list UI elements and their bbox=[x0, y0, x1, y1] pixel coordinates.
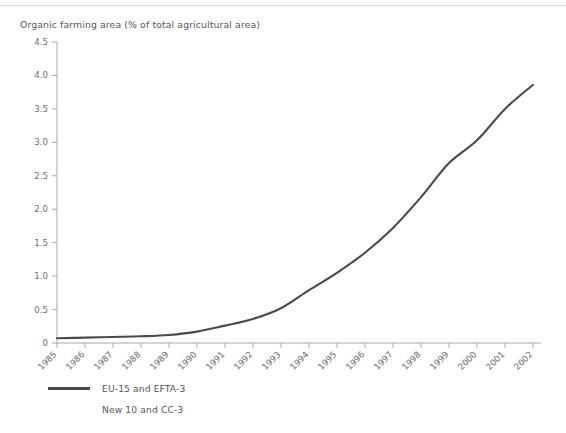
legend-item-label: New 10 and CC-3 bbox=[102, 404, 183, 415]
y-axis: 00.51.01.52.02.53.03.54.04.5 bbox=[34, 37, 57, 348]
x-axis-tick-label: 1993 bbox=[260, 349, 283, 372]
y-axis-tick-label: 3.0 bbox=[34, 137, 48, 147]
x-axis-tick-label: 1992 bbox=[232, 349, 255, 372]
x-axis-tick-label: 1986 bbox=[64, 349, 87, 372]
x-axis-tick-label: 1995 bbox=[316, 349, 339, 372]
series-line bbox=[57, 85, 533, 339]
y-axis-tick-label: 2.0 bbox=[34, 204, 48, 214]
y-axis-tick-label: 4.5 bbox=[34, 37, 48, 47]
legend-item-new10[interactable]: New 10 and CC-3 bbox=[48, 404, 183, 415]
x-axis-tick-label: 1990 bbox=[176, 349, 199, 372]
y-axis-tick-label: 3.5 bbox=[34, 104, 48, 114]
x-axis: 1985198619871988198919901991199219931994… bbox=[36, 343, 541, 372]
x-axis-tick-label: 2000 bbox=[456, 349, 479, 372]
legend-item-eu15[interactable]: EU-15 and EFTA-3 bbox=[48, 383, 185, 394]
x-axis-tick-label: 2001 bbox=[484, 349, 507, 372]
x-axis-tick-label: 2002 bbox=[512, 349, 535, 372]
x-axis-tick-label: 1985 bbox=[36, 349, 59, 372]
x-axis-tick-label: 1996 bbox=[344, 349, 367, 372]
legend-item-label: EU-15 and EFTA-3 bbox=[102, 383, 185, 394]
x-axis-tick-label: 1998 bbox=[400, 349, 423, 372]
y-axis-tick-label: 1.0 bbox=[34, 271, 48, 281]
legend-swatch-icon bbox=[48, 408, 90, 411]
y-axis-tick-label: 0.5 bbox=[34, 305, 48, 315]
data-series-group bbox=[57, 85, 533, 339]
y-axis-tick-label: 1.5 bbox=[34, 238, 48, 248]
x-axis-tick-label: 1987 bbox=[92, 349, 115, 372]
chart-plot-area: 00.51.01.52.02.53.03.54.04.5 19851986198… bbox=[0, 0, 566, 433]
x-axis-tick-label: 1999 bbox=[428, 349, 451, 372]
x-axis-tick-label: 1994 bbox=[288, 349, 311, 372]
legend-swatch-icon bbox=[48, 387, 90, 390]
y-axis-tick-label: 2.5 bbox=[34, 171, 48, 181]
x-axis-tick-label: 1988 bbox=[120, 349, 143, 372]
x-axis-tick-label: 1997 bbox=[372, 349, 395, 372]
y-axis-tick-label: 0 bbox=[43, 338, 48, 348]
line-chart-svg: 00.51.01.52.02.53.03.54.04.5 19851986198… bbox=[0, 0, 566, 433]
y-axis-tick-label: 4.0 bbox=[34, 70, 48, 80]
x-axis-tick-label: 1991 bbox=[204, 349, 227, 372]
x-axis-tick-label: 1989 bbox=[148, 349, 171, 372]
